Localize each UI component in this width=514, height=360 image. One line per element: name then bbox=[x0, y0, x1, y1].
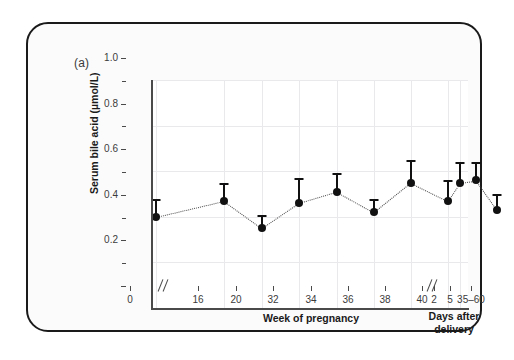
x-axis-tick bbox=[385, 286, 386, 291]
data-point[interactable] bbox=[258, 224, 266, 232]
data-point[interactable] bbox=[407, 179, 415, 187]
x-axis-tick bbox=[450, 286, 451, 291]
y-axis-tick bbox=[121, 240, 126, 241]
x-axis-tick bbox=[311, 286, 312, 291]
error-bar-cap bbox=[333, 173, 342, 175]
data-connector-line bbox=[337, 192, 374, 213]
error-bar-cap bbox=[493, 194, 502, 196]
data-point[interactable] bbox=[295, 199, 303, 207]
y-axis-minor-tick bbox=[122, 172, 126, 173]
data-point[interactable] bbox=[472, 176, 480, 184]
gridline-horizontal bbox=[152, 80, 468, 81]
x-axis-tick bbox=[130, 286, 131, 291]
x-axis-tick-label: 34 bbox=[305, 294, 316, 305]
x-axis-title-secondary-line2: delivery bbox=[434, 323, 474, 335]
y-axis-tick bbox=[121, 286, 126, 287]
data-connector-line bbox=[299, 192, 337, 204]
data-point[interactable] bbox=[333, 188, 341, 196]
x-axis-tick-label: 20 bbox=[230, 294, 241, 305]
x-axis-tick-label: 16 bbox=[192, 294, 203, 305]
gridline-horizontal bbox=[152, 171, 468, 172]
data-point[interactable] bbox=[444, 197, 452, 205]
y-axis-title: Serum bile acid (µmol/L) bbox=[88, 72, 100, 194]
figure-frame: (a) Serum bile acid (µmol/L) Week of pre… bbox=[26, 22, 482, 332]
error-bar-cap bbox=[444, 180, 453, 182]
x-axis-tick bbox=[422, 286, 423, 291]
y-axis-minor-tick bbox=[122, 126, 126, 127]
data-connector-line bbox=[156, 201, 224, 218]
plot-area bbox=[152, 80, 468, 308]
gridline-vertical bbox=[411, 80, 412, 308]
y-axis-tick-label: 0.4 bbox=[86, 189, 118, 200]
y-axis-tick bbox=[121, 104, 126, 105]
x-axis-tick bbox=[471, 286, 472, 291]
y-axis-line bbox=[151, 80, 153, 309]
error-bar-cap bbox=[456, 162, 465, 164]
y-axis-minor-tick bbox=[122, 218, 126, 219]
data-point[interactable] bbox=[220, 197, 228, 205]
gridline-horizontal bbox=[152, 217, 468, 218]
data-connector-line bbox=[411, 183, 448, 202]
y-axis-minor-tick bbox=[122, 81, 126, 82]
error-bar-cap bbox=[258, 215, 267, 217]
x-axis-tick bbox=[273, 286, 274, 291]
x-axis-tick-label: 2 bbox=[431, 294, 437, 305]
error-bar-cap bbox=[220, 183, 229, 185]
x-axis-title-secondary: Days afterdelivery bbox=[429, 310, 480, 336]
data-point[interactable] bbox=[152, 213, 160, 221]
y-axis-tick bbox=[121, 58, 126, 59]
data-point[interactable] bbox=[493, 206, 501, 214]
x-axis-line bbox=[151, 308, 469, 310]
error-bar-cap bbox=[407, 160, 416, 162]
y-axis-tick-label: 0.8 bbox=[86, 98, 118, 109]
data-point[interactable] bbox=[456, 179, 464, 187]
x-axis-tick-label: 35–60 bbox=[457, 294, 485, 305]
error-bar-cap bbox=[370, 199, 379, 201]
x-axis-tick bbox=[198, 286, 199, 291]
x-axis-tick bbox=[434, 286, 435, 291]
y-axis-tick-label: 0.6 bbox=[86, 143, 118, 154]
error-bar-cap bbox=[472, 162, 481, 164]
x-axis-tick-label: 40 bbox=[416, 294, 427, 305]
data-point[interactable] bbox=[370, 208, 378, 216]
x-axis-title-secondary-line1: Days after bbox=[429, 310, 480, 322]
y-axis-tick-label: 0.2 bbox=[86, 234, 118, 245]
gridline-horizontal bbox=[152, 126, 468, 127]
x-axis-tick-label: 36 bbox=[342, 294, 353, 305]
y-axis-minor-tick bbox=[122, 263, 126, 264]
x-axis-title-primary: Week of pregnancy bbox=[263, 312, 359, 325]
y-axis-tick bbox=[121, 195, 126, 196]
x-axis-tick-label: 38 bbox=[379, 294, 390, 305]
x-axis-tick-label: 32 bbox=[267, 294, 278, 305]
gridline-vertical bbox=[156, 80, 157, 308]
x-axis-tick-label: 0 bbox=[127, 294, 133, 305]
error-bar-cap bbox=[295, 178, 304, 180]
gridline-horizontal bbox=[152, 262, 468, 263]
error-bar-cap bbox=[152, 199, 161, 201]
gridline-vertical bbox=[374, 80, 375, 308]
data-connector-line bbox=[223, 201, 262, 229]
x-axis-tick bbox=[236, 286, 237, 291]
gridline-vertical bbox=[262, 80, 263, 308]
data-connector-line bbox=[374, 183, 412, 213]
x-axis-tick bbox=[348, 286, 349, 291]
y-axis-tick bbox=[121, 149, 126, 150]
gridline-vertical bbox=[460, 80, 461, 308]
y-axis-tick-label: 1.0 bbox=[86, 52, 118, 63]
x-axis-tick-label: 5 bbox=[447, 294, 453, 305]
